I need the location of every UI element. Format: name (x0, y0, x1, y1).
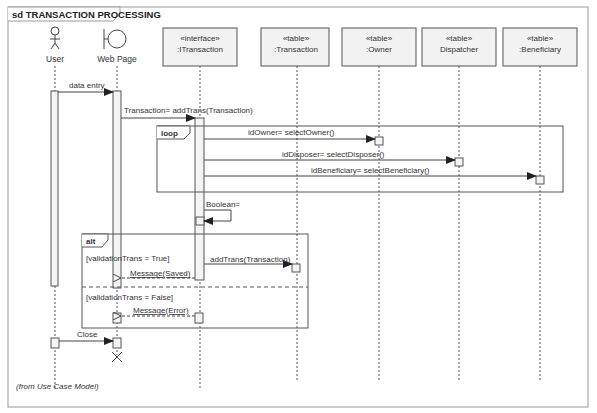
message-label: addTrans(Transaction) (210, 255, 291, 264)
frame-title: sd TRANSACTION PROCESSING (12, 9, 161, 20)
participant-label: :Owner (366, 45, 392, 54)
activation-dispatcher (455, 158, 463, 166)
participant-label: :Transaction (274, 45, 318, 54)
message-saved-return: Message(Saved) (121, 269, 195, 278)
guard-false: [validationTrans = False] (86, 293, 173, 302)
message-label: Close (77, 330, 98, 339)
stereotype: «interface» (180, 34, 220, 43)
message-label: idOwner= selectOwner() (248, 128, 335, 137)
activation-bar-user (51, 91, 58, 286)
footer-note: (from Use Case Model) (16, 382, 99, 391)
activation-owner (375, 137, 383, 145)
activation-beneficiary (536, 176, 544, 184)
stereotype: «table» (366, 34, 393, 43)
activation-user-close (51, 338, 59, 348)
message-label: idDisposer= selectDisposer() (282, 150, 385, 159)
stereotype: «table» (527, 34, 554, 43)
participant-label: User (46, 54, 64, 64)
activation-itransaction-error (195, 313, 203, 323)
activation-self (196, 217, 204, 225)
stereotype: «table» (283, 34, 310, 43)
message-label: Transaction= addTrans(Transaction) (124, 106, 253, 115)
guard-true: [validationTrans = True] (86, 254, 170, 263)
activation-web-page-close (113, 338, 121, 348)
fragment-operator: alt (86, 237, 96, 246)
activation-bar-itransaction (195, 118, 204, 280)
message-label: data entry (69, 81, 105, 90)
message-label: Message(Error) (133, 306, 189, 315)
message-label: idBeneficiary= selectBeneficiary() (311, 166, 430, 175)
participant-label: :Beneficiary (519, 45, 561, 54)
message-label: Boolean= (206, 200, 240, 209)
sequence-diagram: sd TRANSACTION PROCESSING User Web Page … (0, 0, 597, 413)
diagram-frame: sd TRANSACTION PROCESSING (8, 7, 588, 407)
fragment-operator: loop (161, 129, 178, 138)
participant-label: :ITransaction (177, 45, 223, 54)
participant-label: Web Page (97, 54, 137, 64)
activation-transaction (292, 264, 300, 272)
activation-web-page-error (113, 313, 121, 323)
message-add-trans-transaction: addTrans(Transaction) (204, 255, 292, 264)
message-error-return: Message(Error) (121, 306, 195, 316)
message-label: Message(Saved) (130, 269, 191, 278)
participant-label: Dispatcher (440, 45, 479, 54)
stereotype: «table» (446, 34, 473, 43)
